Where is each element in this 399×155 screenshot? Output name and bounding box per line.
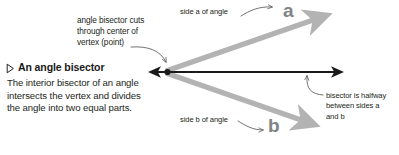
angle-bisector-figure: An angle bisector The interior bisector …: [0, 0, 399, 155]
leader-side-a: [241, 7, 272, 16]
label-side-b: side b of angle: [180, 114, 228, 126]
ray-b-letter: b: [268, 116, 280, 135]
definition-text: The interior bisector of an angle inters…: [7, 77, 141, 115]
page-title: An angle bisector: [18, 62, 104, 74]
callout-vertex-text: angle bisector cuts through center of ve…: [77, 15, 144, 49]
leader-halfway-callout: [307, 76, 323, 95]
triangle-right-outline-icon: [6, 63, 15, 74]
ray-a: [166, 19, 316, 71]
leader-vertex-callout: [131, 47, 166, 62]
leader-side-b: [238, 121, 263, 130]
callout-halfway-text: bisector is halfway between sides a and …: [326, 91, 386, 122]
ray-a-letter: a: [283, 1, 293, 20]
label-side-a: side a of angle: [180, 6, 228, 18]
vertex-point: [164, 69, 170, 75]
